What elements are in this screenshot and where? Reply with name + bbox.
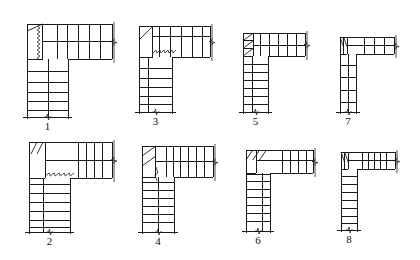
figure-number-8: 8 [346, 233, 352, 245]
stair-figure-6: 6 [242, 148, 318, 246]
stair-figure-5: 5 [239, 31, 310, 127]
stair-figure-8: 8 [337, 150, 400, 245]
figure-number-2: 2 [47, 235, 53, 247]
stair-figure-2: 2 [25, 140, 117, 247]
stair-figure-7: 7 [336, 35, 399, 127]
stair-figure-4: 4 [138, 144, 218, 247]
figure-number-4: 4 [155, 235, 161, 247]
figure-number-3: 3 [153, 115, 159, 127]
stair-plans-svg: 13572468 [0, 0, 420, 260]
figure-number-5: 5 [253, 115, 259, 127]
stair-figure-1: 1 [23, 22, 117, 132]
figure-number-1: 1 [45, 120, 51, 132]
stair-diagram-canvas: 13572468 [0, 0, 420, 260]
figure-number-7: 7 [345, 115, 351, 127]
figure-number-6: 6 [255, 234, 261, 246]
stair-figure-3: 3 [135, 24, 215, 127]
